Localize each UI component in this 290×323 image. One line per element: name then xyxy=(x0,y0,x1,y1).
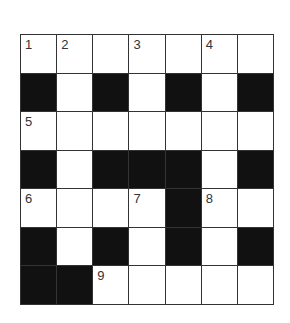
answer-cell[interactable] xyxy=(238,266,273,304)
black-square xyxy=(93,74,128,112)
answer-cell[interactable] xyxy=(57,228,92,266)
answer-cell[interactable]: 6 xyxy=(21,189,56,227)
clue-number: 6 xyxy=(25,192,32,205)
answer-cell[interactable] xyxy=(93,112,128,150)
answer-cell[interactable]: 5 xyxy=(21,112,56,150)
black-square xyxy=(166,74,201,112)
answer-cell[interactable]: 3 xyxy=(129,35,164,73)
clue-number: 1 xyxy=(25,38,32,51)
answer-cell[interactable] xyxy=(57,112,92,150)
black-square xyxy=(238,74,273,112)
black-square xyxy=(21,151,56,189)
black-square xyxy=(21,228,56,266)
clue-number: 4 xyxy=(206,38,213,51)
answer-cell[interactable] xyxy=(166,112,201,150)
answer-cell[interactable] xyxy=(166,266,201,304)
clue-number: 8 xyxy=(206,192,213,205)
answer-cell[interactable] xyxy=(202,74,237,112)
black-square xyxy=(166,189,201,227)
answer-cell[interactable] xyxy=(166,35,201,73)
answer-cell[interactable]: 7 xyxy=(129,189,164,227)
black-square xyxy=(166,228,201,266)
black-square xyxy=(57,266,92,304)
answer-cell[interactable] xyxy=(57,151,92,189)
black-square xyxy=(21,266,56,304)
crossword-grid: 123456789 xyxy=(20,34,274,305)
answer-cell[interactable] xyxy=(129,266,164,304)
answer-cell[interactable] xyxy=(202,266,237,304)
clue-number: 7 xyxy=(133,192,140,205)
answer-cell[interactable] xyxy=(57,189,92,227)
answer-cell[interactable] xyxy=(238,35,273,73)
black-square xyxy=(21,74,56,112)
black-square xyxy=(93,151,128,189)
answer-cell[interactable] xyxy=(202,112,237,150)
clue-number: 2 xyxy=(61,38,68,51)
answer-cell[interactable]: 8 xyxy=(202,189,237,227)
black-square xyxy=(238,151,273,189)
clue-number: 9 xyxy=(97,269,104,282)
clue-number: 5 xyxy=(25,115,32,128)
answer-cell[interactable]: 2 xyxy=(57,35,92,73)
answer-cell[interactable] xyxy=(129,112,164,150)
answer-cell[interactable]: 4 xyxy=(202,35,237,73)
answer-cell[interactable] xyxy=(93,35,128,73)
answer-cell[interactable] xyxy=(202,151,237,189)
answer-cell[interactable] xyxy=(93,189,128,227)
clue-number: 3 xyxy=(133,38,140,51)
black-square xyxy=(238,228,273,266)
black-square xyxy=(166,151,201,189)
black-square xyxy=(129,151,164,189)
black-square xyxy=(93,228,128,266)
answer-cell[interactable] xyxy=(57,74,92,112)
answer-cell[interactable] xyxy=(129,228,164,266)
answer-cell[interactable]: 1 xyxy=(21,35,56,73)
answer-cell[interactable] xyxy=(129,74,164,112)
answer-cell[interactable] xyxy=(238,112,273,150)
answer-cell[interactable]: 9 xyxy=(93,266,128,304)
answer-cell[interactable] xyxy=(238,189,273,227)
answer-cell[interactable] xyxy=(202,228,237,266)
